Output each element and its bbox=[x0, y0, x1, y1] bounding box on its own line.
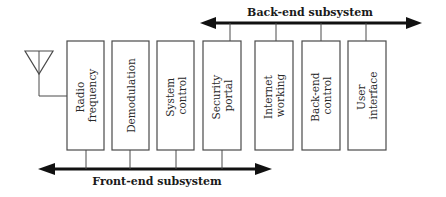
front-end-connectors bbox=[86, 150, 222, 169]
front-end-subsystem-label: Front-end subsystem bbox=[92, 175, 222, 188]
arrow-right-icon bbox=[406, 17, 422, 29]
block-label-line: Security bbox=[210, 75, 222, 120]
arrow-left-icon bbox=[200, 17, 216, 29]
block-label-line: working bbox=[274, 73, 286, 117]
block-label-line: interface bbox=[367, 72, 379, 120]
antenna-icon bbox=[25, 51, 67, 96]
block-label-line: portal bbox=[222, 79, 234, 112]
front-end-bus: Front-end subsystem bbox=[38, 163, 272, 188]
arrow-right-icon bbox=[255, 163, 272, 175]
block-label-line: User bbox=[355, 83, 367, 109]
svg-text:System control: System control bbox=[164, 74, 188, 116]
svg-text:Internet working: Internet working bbox=[262, 72, 286, 119]
block-label-line: Internet bbox=[262, 75, 274, 119]
block-system-control: System control bbox=[157, 41, 194, 150]
block-label-line: System bbox=[164, 78, 176, 117]
back-end-connectors bbox=[230, 23, 366, 41]
back-end-subsystem-label: Back-end subsystem bbox=[247, 6, 373, 19]
block-label-line: Radio bbox=[74, 82, 86, 113]
back-end-bus: Back-end subsystem bbox=[200, 6, 422, 29]
subsystem-block-diagram: Back-end subsystem Front-end subsystem R… bbox=[0, 0, 446, 197]
block-internet-working: Internet working bbox=[255, 41, 293, 150]
block-label-line: control bbox=[321, 76, 333, 115]
block-label-line: Back-end bbox=[309, 72, 321, 122]
block-label-line: control bbox=[176, 76, 188, 115]
block-demodulation: Demodulation bbox=[112, 41, 149, 150]
block-user-interface: User interface bbox=[348, 41, 386, 150]
block-label-line: frequency bbox=[86, 69, 98, 122]
svg-text:Demodulation: Demodulation bbox=[125, 58, 137, 133]
svg-text:Back-end control: Back-end control bbox=[309, 69, 333, 122]
block-radio-frequency: Radio frequency bbox=[67, 41, 104, 150]
arrow-left-icon bbox=[38, 163, 55, 175]
block-label-line: Demodulation bbox=[125, 58, 137, 133]
block-security-portal: Security portal bbox=[203, 41, 241, 150]
block-back-end-control: Back-end control bbox=[302, 41, 340, 150]
